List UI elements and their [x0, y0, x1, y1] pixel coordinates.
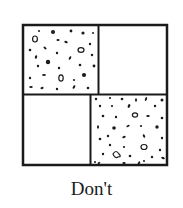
speckled-cell-top-left [29, 30, 96, 91]
figure-caption: Don't [0, 178, 183, 200]
dont-example-figure: Don't [0, 0, 183, 208]
checker-grid-diagram [0, 0, 183, 208]
grid-frame [23, 25, 167, 165]
speckled-cell-bottom-right [94, 97, 165, 165]
